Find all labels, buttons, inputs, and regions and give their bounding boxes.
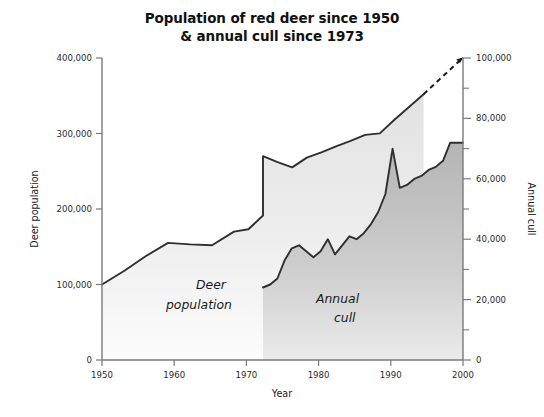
right-tick-label-4: 80,000 xyxy=(476,113,506,123)
right-tick-label-5: 100,000 xyxy=(476,53,512,63)
left-tick-label-4: 400,000 xyxy=(56,53,92,63)
left-tick-label-0: 0 xyxy=(87,355,92,365)
bottom-axis-tick-labels: 1950 1960 1970 1980 1990 2000 xyxy=(91,370,474,380)
right-axis-tick-labels: 0 20,000 40,000 60,000 80,000 100,000 xyxy=(476,53,512,365)
left-axis-ticks xyxy=(96,58,102,360)
bottom-tick-label-1: 1960 xyxy=(163,370,185,380)
bottom-tick-label-3: 1980 xyxy=(308,370,330,380)
bottom-tick-label-2: 1970 xyxy=(235,370,257,380)
deer-annotation-line-1: Deer xyxy=(196,277,227,292)
right-tick-label-1: 20,000 xyxy=(476,295,506,305)
plot-areas xyxy=(102,94,463,360)
bottom-tick-label-0: 1950 xyxy=(91,370,113,380)
cull-annotation-line-1: Annual xyxy=(315,291,360,306)
bottom-tick-label-4: 1990 xyxy=(380,370,402,380)
left-tick-label-2: 200,000 xyxy=(56,204,92,214)
left-axis-tick-labels: 0 100,000 200,000 300,000 400,000 xyxy=(56,53,92,365)
bottom-axis-title: Year xyxy=(271,388,292,399)
chart-container: Population of red deer since 1950 & annu… xyxy=(0,0,544,417)
right-tick-label-3: 60,000 xyxy=(476,174,506,184)
chart-svg: 0 100,000 200,000 300,000 400,000 0 20,0… xyxy=(0,0,544,417)
right-tick-label-0: 0 xyxy=(476,355,481,365)
deer-population-projection-line xyxy=(424,59,462,95)
bottom-tick-label-5: 2000 xyxy=(452,370,474,380)
cull-annotation-line-2: cull xyxy=(334,310,356,325)
right-axis-title: Annual cull xyxy=(526,182,537,235)
left-tick-label-3: 300,000 xyxy=(56,129,92,139)
right-axis-ticks xyxy=(463,58,471,360)
deer-annotation-line-2: population xyxy=(165,297,232,312)
bottom-axis-ticks xyxy=(102,360,463,366)
right-tick-label-2: 40,000 xyxy=(476,234,506,244)
left-tick-label-1: 100,000 xyxy=(56,280,92,290)
left-axis-title: Deer population xyxy=(29,170,40,247)
